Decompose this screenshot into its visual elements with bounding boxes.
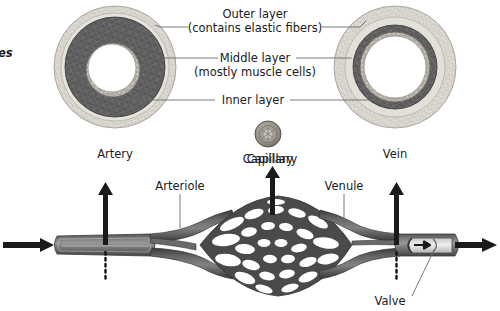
middle-layer-label-line2: (mostly muscle cells) (194, 65, 316, 79)
venule-mid-branch (352, 240, 398, 245)
valve-label: Valve (374, 294, 405, 308)
capillary-bed-label: Capillary (247, 152, 298, 166)
vein-lumen (364, 36, 426, 98)
artery-cross-section (54, 6, 176, 128)
inner-layer-label: Inner layer (222, 93, 285, 107)
clipped-edge-text: es (0, 46, 13, 60)
outer-layer-label-line1: Outer layer (222, 7, 287, 21)
outer-layer-label-line2: (contains elastic fibers) (188, 21, 323, 35)
vessel-diagram-figure: es Artery Vein Capillary Outer la (0, 0, 500, 311)
venule-label: Venule (325, 179, 364, 193)
capillary-cross-section (255, 121, 281, 147)
artery-label: Artery (97, 147, 133, 161)
vein-cross-section (334, 6, 456, 128)
middle-layer-label-line1: Middle layer (220, 51, 291, 65)
diagram-canvas: es Artery Vein Capillary Outer la (0, 0, 500, 311)
arteriole-label: Arteriole (155, 179, 204, 193)
artery-lumen (88, 44, 136, 92)
vein-label: Vein (383, 147, 408, 161)
